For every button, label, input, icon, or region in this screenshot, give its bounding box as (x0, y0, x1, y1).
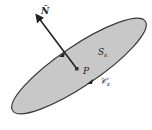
curve-label: 𝒞ε (100, 76, 110, 87)
point-label: P (82, 66, 90, 76)
point-p-marker (75, 67, 79, 71)
surface-s-epsilon (1, 5, 152, 128)
surface-normal-diagram: N̂ Sε P 𝒞ε (0, 0, 152, 130)
normal-label: N̂ (40, 5, 50, 16)
